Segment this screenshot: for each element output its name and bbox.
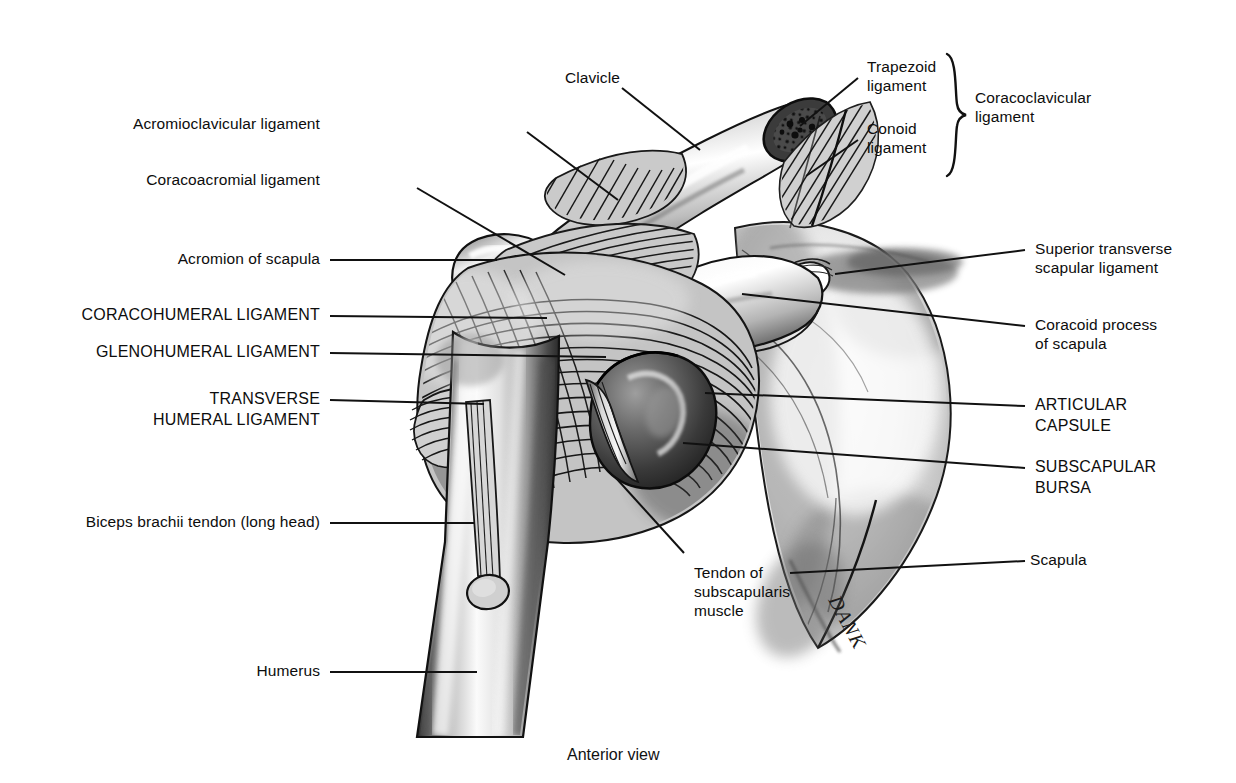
label-coracohumeral-ligament: CORACOHUMERAL LIGAMENT xyxy=(20,305,320,324)
label-coracoclavicular-ligament-line2: ligament xyxy=(975,107,1155,126)
label-acromion-of-scapula: Acromion of scapula xyxy=(20,249,320,268)
label-subscapular-bursa-line2: BURSA xyxy=(1035,478,1235,497)
label-tendon-of-subscapularis-line1: Tendon of xyxy=(694,563,884,582)
label-superior-transverse-scapular-ligament-line2: scapular ligament xyxy=(1035,258,1235,277)
label-articular-capsule-line2: CAPSULE xyxy=(1035,416,1235,435)
label-tendon-of-subscapularis-line3: muscle xyxy=(694,601,884,620)
label-coracoid-process-line1: Coracoid process xyxy=(1035,315,1235,334)
label-transverse-humeral-ligament-line2: HUMERAL LIGAMENT xyxy=(20,410,320,429)
figure-caption: Anterior view xyxy=(567,746,659,764)
label-coracoacromial-ligament: Coracoacromial ligament xyxy=(20,170,320,189)
label-conoid-ligament-line1: Conoid xyxy=(867,119,977,138)
label-glenohumeral-ligament: GLENOHUMERAL LIGAMENT xyxy=(20,342,320,361)
label-clavicle: Clavicle xyxy=(460,68,620,87)
label-humerus: Humerus xyxy=(20,661,320,680)
label-superior-transverse-scapular-ligament-line1: Superior transverse xyxy=(1035,239,1235,258)
anatomical-figure: DANK xyxy=(0,0,1236,783)
label-trapezoid-ligament-line1: Trapezoid xyxy=(867,57,977,76)
label-biceps-brachii-tendon: Biceps brachii tendon (long head) xyxy=(20,512,320,531)
label-conoid-ligament-line2: ligament xyxy=(867,138,977,157)
label-coracoclavicular-ligament-line1: Coracoclavicular xyxy=(975,88,1155,107)
label-scapula: Scapula xyxy=(1030,550,1230,569)
label-subscapular-bursa-line1: SUBSCAPULAR xyxy=(1035,457,1235,476)
label-tendon-of-subscapularis-line2: subscapularis xyxy=(694,582,884,601)
label-articular-capsule-line1: ARTICULAR xyxy=(1035,395,1235,414)
label-trapezoid-ligament-line2: ligament xyxy=(867,76,977,95)
label-transverse-humeral-ligament-line1: TRANSVERSE xyxy=(20,389,320,408)
label-acromioclavicular-ligament: Acromioclavicular ligament xyxy=(20,114,320,133)
label-coracoid-process-line2: of scapula xyxy=(1035,334,1235,353)
